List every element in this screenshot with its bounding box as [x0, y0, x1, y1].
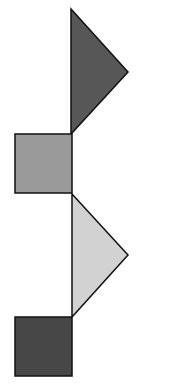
medium-gray-square: [15, 134, 72, 193]
dark-square: [15, 317, 72, 376]
dark-triangle: [71, 9, 128, 134]
shape-diagram: [0, 0, 173, 389]
light-triangle: [72, 194, 128, 317]
